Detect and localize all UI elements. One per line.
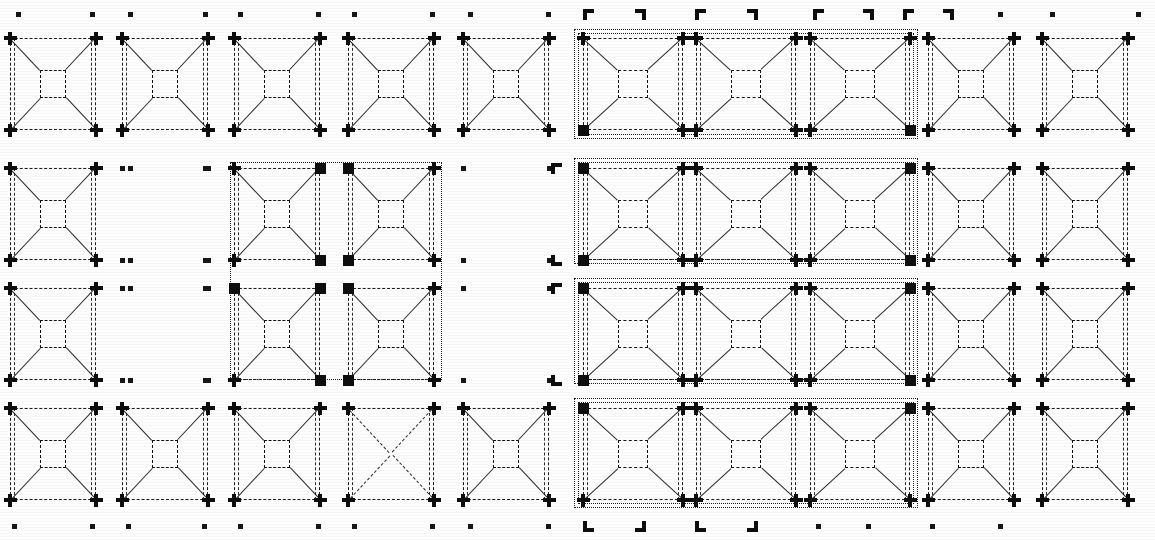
panel-right-rail	[1123, 168, 1124, 260]
panel-inner-square	[845, 200, 875, 228]
panel-cell	[696, 288, 796, 380]
left-edge-marker	[128, 378, 133, 383]
panel-corner-marker-br	[543, 124, 556, 137]
bottom-edge-marker	[866, 524, 871, 529]
panel-corner-marker-tr	[1122, 32, 1135, 45]
panel-corner-marker-tr	[790, 402, 803, 415]
panel-corner-marker-tr	[314, 402, 327, 415]
panel-corner-marker-br	[90, 374, 103, 387]
panel-corner-marker-bl	[4, 124, 17, 137]
panel-inner-square	[40, 440, 66, 468]
panel-cell	[810, 168, 910, 260]
panel-left-rail	[1046, 38, 1047, 130]
panel-corner-marker-tl	[228, 402, 241, 415]
bottom-edge-marker	[126, 524, 131, 529]
panel-corner-marker-tl	[578, 283, 589, 294]
panel-inner-square	[493, 440, 519, 468]
panel-cell	[583, 408, 683, 500]
bottom-edge-marker	[202, 524, 207, 529]
panel-left-rail	[352, 408, 353, 500]
panel-cell	[583, 168, 683, 260]
panel-corner-marker-tl	[922, 162, 935, 175]
panel-corner-marker-bl	[690, 254, 703, 267]
panel-cell	[1042, 288, 1128, 380]
top-edge-marker	[203, 12, 208, 17]
gutter-registration-marker	[551, 283, 562, 294]
panel-right-rail	[91, 168, 92, 260]
panel-right-rail	[315, 38, 316, 130]
panel-inner-square	[731, 440, 761, 468]
panel-left-rail	[352, 288, 353, 380]
panel-right-rail	[203, 38, 204, 130]
panel-corner-marker-tr	[1122, 282, 1135, 295]
panel-corner-marker-tl	[690, 32, 703, 45]
panel-corner-marker-tr	[428, 32, 441, 45]
top-edge-marker	[943, 9, 954, 20]
panel-left-rail	[932, 38, 933, 130]
panel-cell	[234, 408, 320, 500]
panel-corner-marker-tr	[90, 402, 103, 415]
panel-corner-marker-bl	[578, 125, 589, 136]
panel-corner-marker-br	[1122, 124, 1135, 137]
panel-right-rail	[1009, 168, 1010, 260]
left-edge-marker	[128, 258, 133, 263]
bottom-edge-marker	[695, 521, 706, 532]
panel-corner-marker-tr	[315, 283, 326, 294]
panel-corner-marker-tl	[1036, 162, 1049, 175]
panel-right-rail	[91, 38, 92, 130]
panel-corner-marker-tl	[690, 402, 703, 415]
panel-corner-marker-bl	[1036, 494, 1049, 507]
panel-corner-marker-br	[315, 255, 326, 266]
panel-left-rail	[587, 168, 588, 260]
panel-cell	[928, 408, 1014, 500]
top-edge-marker	[813, 9, 824, 20]
panel-right-rail	[315, 408, 316, 500]
top-edge-marker	[238, 12, 243, 17]
panel-right-rail	[1009, 288, 1010, 380]
panel-corner-marker-br	[315, 375, 326, 386]
panel-left-rail	[700, 408, 701, 500]
panel-right-rail	[429, 38, 430, 130]
panel-inner-square	[1072, 440, 1098, 468]
panel-corner-marker-bl	[4, 374, 17, 387]
gutter-registration-marker	[551, 163, 562, 174]
panel-corner-marker-tr	[905, 403, 916, 414]
panel-corner-marker-bl	[342, 124, 355, 137]
panel-cell	[348, 168, 434, 260]
panel-corner-marker-br	[428, 374, 441, 387]
panel-corner-marker-tr	[1122, 402, 1135, 415]
panel-corner-marker-tl	[690, 282, 703, 295]
panel-corner-marker-tl	[229, 283, 240, 294]
panel-left-rail	[587, 408, 588, 500]
panel-cell	[1042, 408, 1128, 500]
panel-inner-square	[40, 70, 66, 98]
panel-corner-marker-tr	[1122, 162, 1135, 175]
top-edge-marker	[1050, 12, 1055, 17]
panel-inner-square	[845, 320, 875, 348]
panel-corner-marker-tr	[1008, 282, 1021, 295]
panel-corner-marker-tr	[1008, 32, 1021, 45]
left-edge-marker-b	[203, 378, 208, 383]
panel-cell	[122, 288, 208, 380]
panel-left-rail	[587, 288, 588, 380]
bottom-edge-marker	[430, 524, 435, 529]
panel-corner-marker-tr	[315, 163, 326, 174]
panel-right-rail	[678, 408, 679, 500]
panel-right-rail	[315, 168, 316, 260]
panel-corner-marker-bl	[1036, 124, 1049, 137]
panel-inner-square	[958, 200, 984, 228]
panel-corner-marker-br	[790, 374, 803, 387]
top-edge-marker	[546, 12, 551, 17]
panel-cell	[928, 168, 1014, 260]
panel-left-rail	[467, 408, 468, 500]
panel-cell	[348, 288, 434, 380]
panel-right-rail	[678, 38, 679, 130]
panel-corner-marker-br	[790, 494, 803, 507]
panel-corner-marker-br	[202, 124, 215, 137]
panel-cell	[463, 408, 549, 500]
panel-right-rail	[791, 408, 792, 500]
panel-left-rail	[587, 38, 588, 130]
panel-right-rail	[1123, 408, 1124, 500]
panel-corner-marker-tl	[1036, 32, 1049, 45]
panel-corner-marker-tl	[4, 282, 17, 295]
